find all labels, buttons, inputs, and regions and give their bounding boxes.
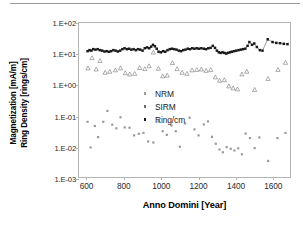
data-point <box>166 134 168 136</box>
data-point <box>182 49 185 52</box>
data-point <box>101 49 104 52</box>
chart-legend: NRM SIRM Ring/cm <box>139 87 185 126</box>
data-point <box>180 50 183 53</box>
x-axis-tick-label: 800 <box>117 181 131 191</box>
data-point <box>98 59 102 63</box>
data-point <box>286 43 289 46</box>
data-point <box>253 88 257 92</box>
data-point <box>209 47 212 50</box>
data-point <box>108 69 112 73</box>
legend-marker-ringcm <box>139 118 151 120</box>
data-point <box>241 153 243 155</box>
data-point <box>112 49 115 52</box>
data-point <box>189 48 192 51</box>
y-axis-tick-label: 1.E+00 <box>53 81 76 90</box>
data-point <box>217 78 221 82</box>
y-axis-title-line1: Magnetization [mA/m] <box>9 23 20 183</box>
y-axis-tick-label: 1.E+01 <box>53 50 76 59</box>
data-point <box>242 48 245 51</box>
data-point <box>155 47 158 50</box>
data-point <box>170 61 174 65</box>
data-point <box>245 69 249 73</box>
data-point <box>195 47 198 50</box>
legend-item-sirm: SIRM <box>139 100 185 113</box>
data-point <box>207 120 209 122</box>
data-point <box>119 116 121 118</box>
data-point <box>275 42 278 45</box>
x-axis-tick-label: 1000 <box>152 181 170 191</box>
data-point <box>119 49 122 52</box>
x-axis-tick-mark <box>161 177 162 180</box>
data-point <box>175 48 178 51</box>
data-canvas <box>79 23 292 179</box>
data-point <box>99 49 102 52</box>
y-axis-tick-mark <box>76 179 79 180</box>
data-point <box>118 66 122 70</box>
data-point <box>203 123 205 125</box>
data-point <box>115 127 117 129</box>
data-point <box>253 42 256 45</box>
y-axis-tick-mark <box>76 117 79 118</box>
data-point <box>233 149 235 151</box>
data-point <box>114 49 117 52</box>
data-point <box>108 50 111 53</box>
y-axis-tick-mark <box>76 54 79 55</box>
y-axis-tick-label: 1.E-01 <box>55 112 76 121</box>
data-point <box>214 47 217 50</box>
data-point <box>142 132 144 134</box>
data-point <box>233 50 236 53</box>
x-axis-tick-mark <box>86 177 87 180</box>
data-point <box>266 38 269 41</box>
data-point <box>105 50 108 53</box>
data-point <box>133 71 137 75</box>
y-axis-tick-label: 1.E-02 <box>55 143 76 152</box>
data-point <box>231 86 235 90</box>
data-point <box>102 121 104 123</box>
legend-marker-nrm <box>139 92 151 94</box>
legend-item-nrm: NRM <box>139 87 185 100</box>
y-axis-title-line2: Ring Density [rings/cm] <box>20 23 31 183</box>
x-axis-tick-mark <box>199 177 200 180</box>
data-point <box>139 48 142 51</box>
data-point <box>94 125 96 127</box>
data-point <box>195 68 199 72</box>
data-point <box>193 128 195 130</box>
data-point <box>146 46 149 49</box>
x-axis-tick-mark <box>273 177 274 180</box>
data-point <box>190 68 194 72</box>
y-axis-tick-mark <box>76 23 79 24</box>
data-point <box>147 64 151 68</box>
data-point <box>197 134 199 136</box>
legend-label-nrm: NRM <box>155 89 174 99</box>
data-point <box>138 66 142 70</box>
x-axis-tick-mark <box>236 177 237 180</box>
data-point <box>161 74 165 78</box>
data-point <box>123 47 126 50</box>
data-point <box>258 136 260 138</box>
data-point <box>261 49 264 52</box>
data-point <box>110 50 113 53</box>
data-point <box>222 78 226 82</box>
legend-item-ringcm: Ring/cm <box>139 113 185 126</box>
y-axis-tick-label: 1.E+02 <box>53 19 76 28</box>
data-point <box>86 121 88 123</box>
data-point <box>267 160 269 162</box>
data-point <box>166 49 169 52</box>
data-point <box>211 136 213 138</box>
x-axis-tick-label: 600 <box>80 181 94 191</box>
data-point <box>121 48 124 51</box>
data-point <box>111 124 113 126</box>
data-point <box>213 75 217 79</box>
data-point <box>175 130 177 132</box>
data-point <box>138 133 140 135</box>
data-point <box>132 48 135 51</box>
data-point <box>90 56 94 60</box>
data-point <box>283 43 286 46</box>
data-point <box>162 130 164 132</box>
x-axis-tick-label: 1600 <box>264 181 282 191</box>
legend-swatch-square <box>144 118 146 120</box>
legend-swatch-square <box>144 92 146 94</box>
data-point <box>227 84 231 88</box>
data-point <box>124 126 126 128</box>
data-point <box>164 50 167 53</box>
